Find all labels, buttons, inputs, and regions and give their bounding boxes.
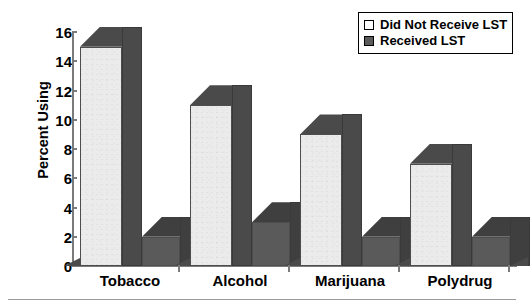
bar-did-not-receive-lst [190,105,232,266]
bar-side-face [122,27,142,266]
bar-side-face [342,114,362,266]
legend-label: Did Not Receive LST [380,18,507,31]
bottom-divider [8,299,516,300]
bar-top-face [142,217,180,237]
bar-side-face [232,85,252,266]
bar-top-face [472,217,510,237]
bar-top-face [300,114,342,134]
bar-top-face [80,27,122,47]
y-tick-label: 6 [48,170,72,187]
y-tick-label: 10 [48,111,72,128]
bar-received-lst [472,237,510,266]
y-tick-label: 16 [48,24,72,41]
x-category-label: Marijuana [292,272,408,289]
bar-did-not-receive-lst [410,164,452,266]
bar-group [300,32,410,266]
x-tick-mark [178,265,180,272]
bar-front-face [410,164,452,266]
floor-shadow [510,257,528,266]
bar-front-face [472,237,510,266]
bar-group [190,32,300,266]
x-tick-mark [398,265,400,272]
bar-side-face [452,144,472,266]
legend-item: Did Not Receive LST [364,17,507,32]
bar-did-not-receive-lst [80,47,122,266]
bar-front-face [80,47,122,266]
bar-front-face [300,134,342,266]
y-tick-label: 4 [48,199,72,216]
y-tick-label: 12 [48,82,72,99]
bar-top-face [252,202,290,222]
bar-top-face [362,217,400,237]
bar-group [410,32,520,266]
bar-group [80,32,190,266]
legend-label: Received LST [380,34,465,47]
y-tick-label: 2 [48,228,72,245]
x-category-label: Polydrug [402,272,518,289]
y-tick-label: 14 [48,53,72,70]
legend: Did Not Receive LSTReceived LST [358,12,513,54]
x-category-label: Tobacco [72,272,188,289]
legend-item: Received LST [364,33,507,48]
bar-top-face [190,85,232,105]
light-swatch [364,20,374,30]
dark-swatch [364,36,374,46]
x-category-label: Alcohol [182,272,298,289]
bar-front-face [190,105,232,266]
bar-did-not-receive-lst [300,134,342,266]
plot-area [74,32,517,266]
x-tick-mark [508,265,510,272]
bar-top-face [410,144,452,164]
y-tick-label: 8 [48,141,72,158]
x-tick-mark [288,265,290,272]
